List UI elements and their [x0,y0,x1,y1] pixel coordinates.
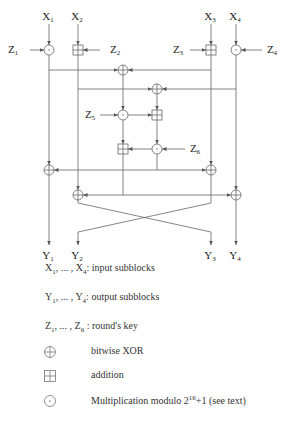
output-label-1: Y1 [42,249,54,263]
legend-outputs: Y1, ... , Y4: output subblocks [45,291,159,305]
output-label-2: Y2 [71,249,83,263]
legend-mul-label: Multiplication modulo 216+1 (see text) [91,394,246,406]
input-label-3: X3 [204,10,216,24]
operation-nodes [44,45,241,200]
add-node-ma2 [118,144,128,154]
xor-node-out3 [206,165,216,175]
xor-node-out4 [231,190,241,200]
output-label-4: Y4 [229,249,241,263]
mul-node-z1 [44,45,54,55]
add-node-ma1 [152,110,162,120]
key-label-z2: Z2 [110,43,121,57]
multiplication-icon [42,393,58,409]
add-node-z2 [73,45,83,55]
xor-node-2 [152,84,162,94]
mul-node-z5 [118,110,128,120]
key-label-z5: Z5 [85,108,96,122]
input-label-1: X1 [42,10,54,24]
output-wire-cross-b [78,200,211,245]
output-label-3: Y3 [204,249,216,263]
legend-add-label: addition [91,369,124,380]
add-node-z3 [206,45,216,55]
key-label-z6: Z6 [190,142,201,156]
mul-node-z4 [231,45,241,55]
wires [30,24,262,245]
xor-node-1 [118,65,128,75]
mul-node-z6 [152,144,162,154]
legend-keys: Z1, ... , Z6 : round's key [45,320,138,334]
key-label-z4: Z4 [267,43,278,57]
addition-icon [42,368,58,384]
xor-node-out2 [73,190,83,200]
xor-icon [42,344,58,360]
idea-round-diagram: X1X2X3X4Y1Y2Y3Y4Z1Z2Z3Z4Z5Z6 [0,0,286,430]
input-label-4: X4 [229,10,241,24]
legend-xor-label: bitwise XOR [91,345,144,356]
input-label-2: X2 [71,10,83,24]
xor-node-out1 [44,165,54,175]
key-label-z3: Z3 [173,43,184,57]
key-label-z1: Z1 [8,43,19,57]
legend-inputs: X1, ... , X4: input subblocks [45,262,155,276]
output-wire-cross-c [78,175,211,245]
